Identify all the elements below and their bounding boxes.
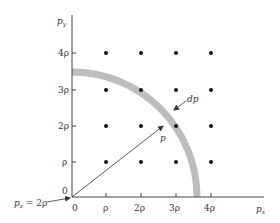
x-tick-label-3: 3ρ [169, 203, 180, 213]
pz-label: pz = 2ρ [14, 198, 47, 209]
momentum-shell-arc [72, 72, 197, 197]
y-tick-label-3: 3ρ [58, 85, 69, 95]
y-axis-label: py [57, 16, 67, 28]
y-tick-label-1: ρ [62, 157, 67, 167]
x-tick-label-2: 2ρ [134, 203, 145, 213]
origin-x-label: 0 [72, 203, 78, 213]
pz-arrow [47, 198, 70, 202]
radius-label: p [160, 133, 166, 143]
y-tick-label-2: 2ρ [58, 121, 69, 131]
shell-thickness-arrow [174, 101, 186, 110]
momentum-space-diagram: py px 4ρ 3ρ 2ρ ρ 0 0 ρ 2ρ 3ρ 4ρ pz = 2ρ … [0, 0, 280, 223]
radius-arrow [72, 126, 163, 197]
x-tick-label-1: ρ [103, 203, 108, 213]
y-tick-label-4: 4ρ [58, 48, 69, 58]
origin-y-label: 0 [62, 186, 68, 196]
shell-label: dp [187, 94, 199, 104]
x-axis-label: px [256, 204, 266, 215]
x-tick-label-4: 4ρ [204, 203, 215, 213]
